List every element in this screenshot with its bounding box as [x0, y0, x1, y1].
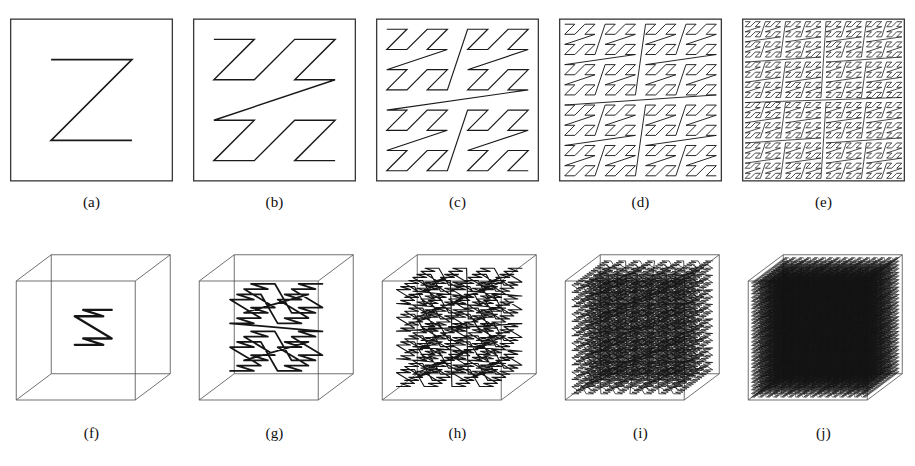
curve-path: [214, 39, 335, 160]
curve-path: [230, 284, 322, 371]
cube-edge: [199, 374, 234, 400]
panel-e-label: (e): [815, 195, 832, 210]
curve-path: [745, 22, 902, 179]
panel-c-canvas: [375, 14, 540, 186]
space-filling-curve-3d-order-2: [230, 284, 322, 371]
cube-edge: [135, 374, 170, 400]
panel-h-label: (h): [448, 426, 466, 441]
curve-path: [565, 24, 717, 176]
row-2d-curves: (a) (b) (c) (d): [0, 14, 915, 232]
curve-path: [51, 60, 132, 141]
figure-container: (a) (b) (c) (d): [0, 0, 915, 466]
panel-i-canvas: [553, 240, 728, 420]
panel-i-label: (i): [633, 426, 648, 441]
panel-d-canvas: [558, 14, 723, 186]
panel-a-canvas: [9, 14, 174, 186]
row-3d-curves: (f) (g) (h) (i): [0, 240, 915, 464]
space-filling-curve-order-3: [387, 29, 528, 170]
space-filling-curve-3d-order-5: [751, 258, 899, 398]
panel-g-canvas: [187, 240, 362, 420]
panel-i: (i): [549, 240, 732, 464]
panel-b: (b): [183, 14, 366, 232]
panel-j-label: (j): [816, 426, 831, 441]
panel-a-label: (a): [83, 195, 100, 210]
panel-b-label: (b): [265, 195, 283, 210]
space-filling-curve-3d-order-1: [75, 310, 112, 345]
curve-path: [572, 261, 713, 394]
space-filling-curve-order-5: [745, 22, 902, 179]
panel-c-label: (c): [449, 195, 466, 210]
panel-g-label: (g): [265, 426, 283, 441]
panel-a: (a): [0, 14, 183, 232]
space-filling-curve-3d-order-4: [572, 261, 713, 394]
curve-path: [751, 258, 899, 398]
curve-path: [397, 268, 522, 386]
panel-e-canvas: [741, 14, 906, 186]
panel-c: (c): [366, 14, 549, 232]
cube-edge: [501, 374, 536, 400]
panel-f-label: (f): [84, 426, 100, 441]
panel-d-label: (d): [631, 195, 649, 210]
panel-e: (e): [732, 14, 915, 232]
space-filling-curve-order-1: [51, 60, 132, 141]
cube-edge: [382, 255, 417, 281]
panel-f: (f): [0, 240, 183, 464]
space-filling-curve-order-2: [214, 39, 335, 160]
panel-j-canvas: [736, 240, 911, 420]
cube-edge: [16, 255, 51, 281]
cube-edge: [318, 374, 353, 400]
panel-g: (g): [183, 240, 366, 464]
panel-b-canvas: [192, 14, 357, 186]
cube-edge: [199, 255, 234, 281]
panel-h: (h): [366, 240, 549, 464]
cube-edge: [135, 255, 170, 281]
panel-j: (j): [732, 240, 915, 464]
cube-edge: [318, 255, 353, 281]
curve-path: [387, 29, 528, 170]
panel-d: (d): [549, 14, 732, 232]
curve-path: [75, 310, 112, 345]
panel-h-canvas: [370, 240, 545, 420]
cube-edge: [16, 374, 51, 400]
space-filling-curve-3d-order-3: [397, 268, 522, 386]
space-filling-curve-order-4: [565, 24, 717, 176]
panel-f-canvas: [4, 240, 179, 420]
